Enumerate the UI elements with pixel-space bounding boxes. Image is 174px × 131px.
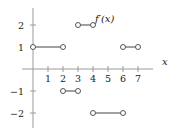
open-endpoint-marker [76, 23, 81, 28]
y-tick-label: −1 [10, 86, 24, 97]
step-segment [91, 111, 126, 116]
open-endpoint-marker [61, 45, 66, 50]
step-segment [31, 45, 66, 50]
x-tick-label: 3 [75, 73, 81, 84]
x-tick-label: 1 [45, 73, 51, 84]
open-endpoint-marker [61, 89, 66, 94]
open-endpoint-marker [121, 111, 126, 116]
open-endpoint-marker [136, 45, 141, 50]
y-tick-label: 1 [18, 42, 24, 53]
x-tick-label: 2 [60, 73, 66, 84]
open-endpoint-marker [76, 89, 81, 94]
x-tick-label: 6 [120, 73, 126, 84]
step-segment [76, 23, 96, 28]
axes [22, 8, 153, 128]
y-tick-label: −2 [10, 108, 24, 119]
open-endpoint-marker [91, 111, 96, 116]
step-segment [121, 45, 141, 50]
chart: 1234567 21−1−2 x f′(x) [0, 0, 174, 131]
open-endpoint-marker [31, 45, 36, 50]
x-tick-label: 7 [135, 73, 141, 84]
y-tick-label: 2 [18, 20, 24, 31]
x-tick-label: 5 [105, 73, 111, 84]
function-label: f′(x) [94, 13, 115, 24]
open-endpoint-marker [121, 45, 126, 50]
x-axis-label: x [162, 56, 168, 67]
step-segment [61, 89, 81, 94]
x-tick-label: 4 [90, 73, 96, 84]
